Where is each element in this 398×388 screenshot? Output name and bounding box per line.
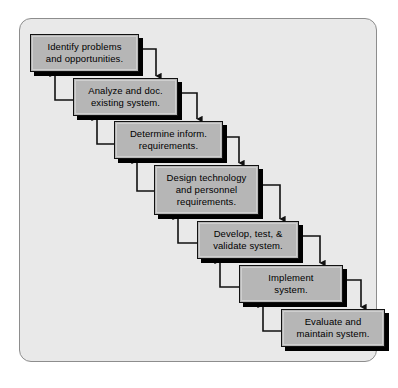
stage-label-line: Analyze and doc. [88,85,162,97]
stage-box-evaluate[interactable]: Evaluate andmaintain system. [281,309,385,347]
stage-box-develop[interactable]: Develop, test, &validate system. [197,221,299,259]
diagram-canvas: Identify problemsand opportunities.Analy… [0,0,398,388]
stage-box-analyze[interactable]: Analyze and doc.existing system. [73,78,178,116]
stage-box-determine[interactable]: Determine inform.requirements. [114,121,223,159]
stage-label-line: and personnel [176,184,238,196]
stage-label-line: Implement [268,272,313,284]
stage-label-line: and opportunities. [46,53,123,65]
stage-label-line: system. [274,284,307,296]
stage-label-line: Design technology [167,172,247,184]
stage-label-line: requirements. [139,140,198,152]
stage-label-line: Determine inform. [130,128,207,140]
stage-label-line: requirements. [177,196,236,208]
stage-label-line: Evaluate and [305,316,362,328]
stage-label-line: validate system. [213,240,283,252]
stage-label-line: Identify problems [47,41,121,53]
stage-box-implement[interactable]: Implementsystem. [239,265,343,303]
stage-box-identify[interactable]: Identify problemsand opportunities. [30,34,139,72]
stage-label-line: Develop, test, & [214,228,283,240]
stage-box-design[interactable]: Design technologyand personnelrequiremen… [154,165,259,215]
stage-label-line: maintain system. [297,328,370,340]
stage-label-line: existing system. [91,97,160,109]
